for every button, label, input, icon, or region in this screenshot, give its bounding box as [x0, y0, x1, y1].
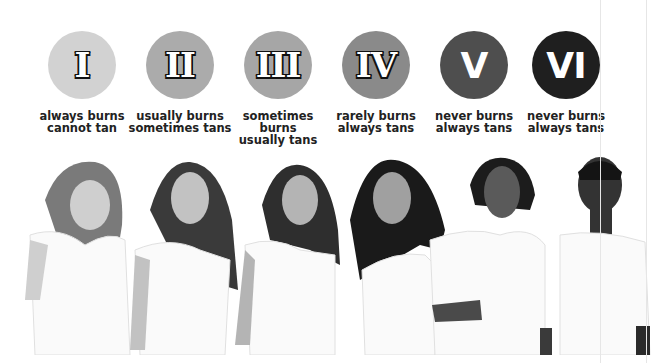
type-circle: II	[146, 31, 214, 99]
numeral: IV	[356, 45, 396, 85]
type-circle: VI	[532, 31, 600, 99]
type-description: rarely burns always tans	[321, 110, 431, 134]
type-description: always burns cannot tan	[27, 110, 137, 134]
numeral: II	[165, 45, 195, 85]
model-6	[560, 157, 650, 355]
type-description: usually burns sometimes tans	[125, 110, 235, 134]
models-photo	[0, 150, 665, 355]
numeral: VI	[546, 45, 585, 86]
type-circle: III	[244, 31, 312, 99]
type-circle: IV	[342, 31, 410, 99]
type-description: never burns always tans	[511, 110, 621, 134]
numeral: I	[75, 45, 90, 85]
model-3	[235, 165, 340, 355]
model-2	[130, 162, 238, 355]
type-circle: V	[440, 31, 508, 99]
divider-line	[646, 0, 647, 363]
numeral: III	[256, 45, 301, 85]
model-5	[430, 158, 552, 355]
type-description: sometimes burns usually tans	[223, 110, 333, 146]
model-1	[25, 162, 130, 355]
type-circle: I	[48, 31, 116, 99]
numeral: V	[461, 45, 488, 86]
divider-line	[600, 0, 601, 363]
